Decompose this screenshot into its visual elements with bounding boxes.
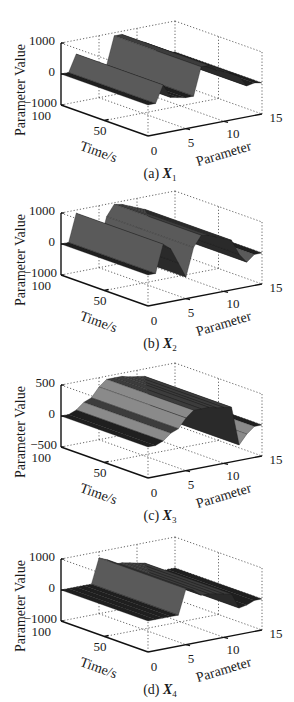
y-tick-100: 100	[32, 624, 52, 639]
surface-plot-panel-c: Parameter Value 500 0 −500 100 50 0 5 10…	[0, 360, 294, 532]
x-axis-label: Parameter	[194, 480, 253, 511]
surface	[61, 376, 262, 447]
z-tick-mid: 0	[49, 406, 56, 421]
surface-plot: Parameter Value 1000 0 −1000 100 50 0 5 …	[0, 188, 294, 360]
y-tick-100: 100	[32, 278, 52, 293]
x-tick-5: 5	[188, 305, 195, 320]
y-tick-50: 50	[94, 123, 107, 138]
z-tick-mid: 0	[49, 64, 56, 79]
x-tick-0: 0	[151, 485, 158, 500]
y-tick-50: 50	[94, 465, 107, 480]
x-tick-5: 5	[188, 477, 195, 492]
surface-plot: Parameter Value 500 0 −500 100 50 0 5 10…	[0, 360, 294, 532]
surface-plot-panel-b: Parameter Value 1000 0 −1000 100 50 0 5 …	[0, 188, 294, 360]
surface-plot: Parameter Value 1000 0 −1000 100 50 0 5 …	[0, 18, 294, 190]
panel-caption: (a) X1	[144, 166, 177, 183]
x-tick-15: 15	[270, 452, 283, 467]
z-tick-mid: 0	[49, 234, 56, 249]
y-axis-label: Time/s	[78, 308, 119, 335]
z-tick-top: 1000	[29, 33, 55, 48]
x-tick-5: 5	[188, 135, 195, 150]
surface	[61, 204, 262, 277]
z-tick-top: 1000	[29, 203, 55, 218]
x-tick-15: 15	[270, 110, 283, 125]
x-tick-10: 10	[227, 126, 240, 141]
z-axis-label: Parameter Value	[13, 386, 28, 478]
z-axis-label: Parameter Value	[13, 214, 28, 306]
x-tick-10: 10	[227, 642, 240, 657]
panel-caption: (b) X2	[143, 336, 177, 353]
z-axis-label: Parameter Value	[13, 560, 28, 652]
x-axis-label: Parameter	[194, 654, 253, 685]
x-tick-0: 0	[151, 659, 158, 674]
y-tick-100: 100	[32, 108, 52, 123]
z-tick-mid: 0	[49, 580, 56, 595]
y-tick-50: 50	[94, 293, 107, 308]
y-axis-label: Time/s	[78, 654, 119, 681]
x-axis-label: Parameter	[194, 138, 253, 169]
x-axis-label: Parameter	[194, 308, 253, 339]
x-tick-10: 10	[227, 296, 240, 311]
x-tick-15: 15	[270, 280, 283, 295]
z-axis-label: Parameter Value	[13, 44, 28, 136]
surface	[61, 558, 262, 621]
x-tick-10: 10	[227, 468, 240, 483]
x-tick-15: 15	[270, 626, 283, 641]
surface-plot: Parameter Value 1000 0 −1000 100 50 0 5 …	[0, 534, 294, 702]
y-axis-label: Time/s	[78, 138, 119, 165]
x-tick-0: 0	[151, 143, 158, 158]
panel-caption: (c) X3	[144, 508, 177, 525]
x-tick-0: 0	[151, 313, 158, 328]
y-tick-100: 100	[32, 450, 52, 465]
panel-caption: (d) X4	[143, 682, 177, 699]
z-tick-top: 500	[36, 375, 56, 390]
surface	[61, 34, 262, 105]
z-tick-top: 1000	[29, 549, 55, 564]
x-tick-5: 5	[188, 651, 195, 666]
y-tick-50: 50	[94, 639, 107, 654]
surface-plot-panel-d: Parameter Value 1000 0 −1000 100 50 0 5 …	[0, 534, 294, 702]
surface-plot-panel-a: Parameter Value 1000 0 −1000 100 50 0 5 …	[0, 18, 294, 190]
y-axis-label: Time/s	[78, 480, 119, 507]
